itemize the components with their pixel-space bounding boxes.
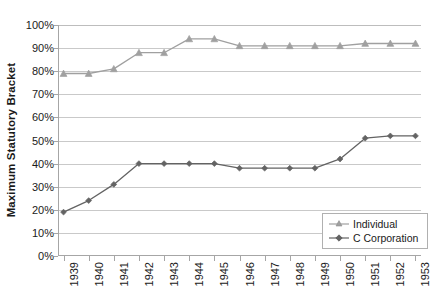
gridline: [59, 25, 421, 26]
x-axis-tick-label: 1949: [320, 262, 331, 286]
x-axis-tick-mark: [164, 256, 165, 261]
chart-legend: Individual C Corporation: [322, 213, 428, 249]
x-axis-tick-label: 1940: [94, 262, 105, 286]
gridline: [59, 48, 421, 49]
x-axis-tick-label: 1947: [270, 262, 281, 286]
x-axis-tick-mark: [139, 256, 140, 261]
x-axis-tick-label: 1939: [69, 262, 80, 286]
gridline: [59, 164, 421, 165]
x-axis-tick-mark: [189, 256, 190, 261]
x-axis-tick-mark: [390, 256, 391, 261]
gridline: [59, 187, 421, 188]
gridline: [59, 210, 421, 211]
x-axis-tick-mark: [340, 256, 341, 261]
x-axis-tick-label: 1948: [295, 262, 306, 286]
x-axis-tick-mark: [214, 256, 215, 261]
legend-marker-c-corporation: [328, 232, 350, 244]
x-axis-tick-label: 1946: [245, 262, 256, 286]
chart-container: Maximum Statutory Bracket 0%10%20%30%40%…: [0, 0, 437, 300]
x-axis-tick-labels: 1939194019411942194319441945194619471948…: [58, 262, 421, 300]
gridline: [59, 94, 421, 95]
x-axis-tick-mark: [365, 256, 366, 261]
gridline: [59, 71, 421, 72]
x-axis-tick-mark: [64, 256, 65, 261]
x-axis-tick-label: 1952: [395, 262, 406, 286]
x-axis-tick-label: 1944: [194, 262, 205, 286]
legend-label-c-corporation: C Corporation: [353, 232, 418, 244]
y-axis-tick-marks: [0, 25, 58, 256]
legend-item-individual[interactable]: Individual: [328, 217, 423, 231]
x-axis-tick-mark: [265, 256, 266, 261]
x-axis-tick-mark: [114, 256, 115, 261]
gridline: [59, 117, 421, 118]
x-axis-tick-label: 1953: [420, 262, 431, 286]
x-axis-tick-label: 1950: [345, 262, 356, 286]
x-axis-tick-mark: [315, 256, 316, 261]
x-axis-tick-label: 1943: [169, 262, 180, 286]
legend-item-c-corporation[interactable]: C Corporation: [328, 231, 423, 245]
gridline: [59, 141, 421, 142]
x-axis-tick-mark: [240, 256, 241, 261]
x-axis-tick-label: 1942: [144, 262, 155, 286]
legend-label-individual: Individual: [353, 218, 397, 230]
x-axis-tick-label: 1951: [370, 262, 381, 286]
x-axis-tick-label: 1941: [119, 262, 130, 286]
legend-marker-individual: [328, 218, 350, 230]
x-axis-tick-mark: [290, 256, 291, 261]
x-axis-tick-label: 1945: [219, 262, 230, 286]
x-axis-tick-mark: [89, 256, 90, 261]
x-axis-tick-mark: [415, 256, 416, 261]
